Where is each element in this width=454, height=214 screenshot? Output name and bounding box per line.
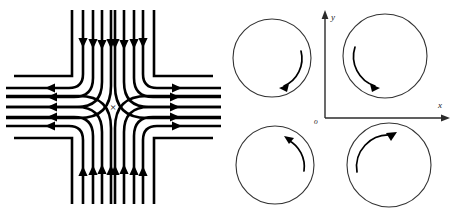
arrow-down-icon <box>119 40 128 50</box>
saddle-arrowheads-top <box>78 38 147 50</box>
arrow-right-icon <box>170 112 180 121</box>
bottom-left-circle <box>236 126 314 204</box>
arrow-down-icon <box>78 38 87 48</box>
arrow-up-icon <box>88 165 97 175</box>
x-axis-arrowhead-icon <box>441 115 450 122</box>
arrow-right-icon <box>172 121 182 130</box>
y-axis-arrowhead-icon <box>322 10 329 19</box>
arrow-left-icon <box>47 112 57 121</box>
top-left-circulation-arc <box>284 51 302 86</box>
arrow-up-icon <box>138 166 147 176</box>
streamline-outer-bottom-right <box>154 138 213 204</box>
saddle-point-streamline-diagram: × <box>0 0 227 214</box>
streamline-outer-top-left <box>14 10 72 76</box>
axis-arrowheads <box>322 10 450 121</box>
bottom-right-circulation-arc <box>357 135 391 172</box>
top-right-circle <box>343 14 427 98</box>
arrow-up-icon <box>78 166 87 176</box>
arrow-right-icon <box>170 102 180 111</box>
circulation-arcs <box>284 47 391 172</box>
arrow-up-icon <box>129 165 138 175</box>
arrow-up-icon <box>119 164 128 174</box>
vortex-svg: y x o <box>227 0 454 214</box>
figure-container: × y x o <box>0 0 454 214</box>
y-axis-label: y <box>330 12 335 22</box>
arrow-right-icon <box>172 83 182 92</box>
circulation-arrowheads <box>279 84 397 144</box>
streamline-outer-top-right <box>154 10 213 76</box>
arrow-left-icon <box>45 121 55 130</box>
arrow-right-icon <box>386 132 397 141</box>
arrow-right-icon <box>170 92 180 101</box>
quadrant-circles <box>233 14 431 207</box>
arrow-left-icon <box>47 92 57 101</box>
bottom-left-circulation-arc <box>288 140 304 171</box>
saddle-arrowheads-bottom <box>78 164 147 176</box>
arrow-left-icon <box>45 83 55 92</box>
quadrant-circulation-diagram: y x o <box>227 0 454 214</box>
top-left-circle <box>233 19 311 97</box>
arrow-down-icon <box>97 40 106 50</box>
saddle-svg: × <box>0 0 227 214</box>
arrow-down-icon <box>138 38 147 48</box>
arrow-down-icon <box>129 39 138 49</box>
arrow-left-icon <box>47 102 57 111</box>
arrow-down-icon <box>88 39 97 49</box>
top-right-circulation-arc <box>354 47 375 86</box>
x-axis-label: x <box>437 100 442 110</box>
streamline-outer-bottom-left <box>14 138 72 204</box>
origin-label: o <box>314 117 318 126</box>
saddle-center-mark: × <box>110 101 116 113</box>
arrow-up-icon <box>97 164 106 174</box>
